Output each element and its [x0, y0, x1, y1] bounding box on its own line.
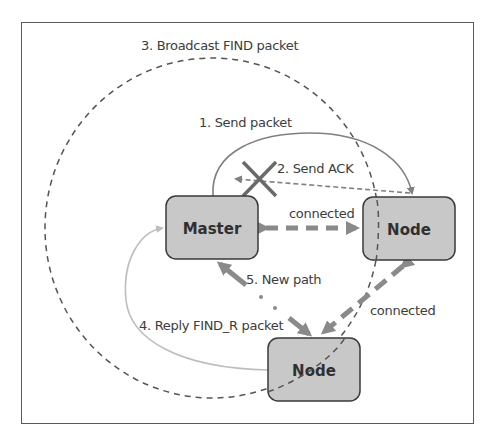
failed-x-icon: [243, 162, 276, 196]
right-node-label: Node: [387, 221, 431, 239]
send-ack-label: 2. Send ACK: [277, 161, 354, 176]
connected-bottom-right-arrow: [324, 266, 403, 332]
master-node[interactable]: Master: [166, 196, 258, 259]
master-node-label: Master: [183, 220, 242, 238]
send-packet-label: 1. Send packet: [199, 115, 292, 130]
connected-label-top: connected: [289, 206, 354, 221]
right-node[interactable]: Node: [363, 197, 455, 260]
reply-find-r-label: 4. Reply FIND_R packet: [139, 318, 284, 333]
connected-label-right: connected: [370, 303, 435, 318]
bottom-node[interactable]: Node: [268, 338, 360, 401]
broadcast-find-label: 3. Broadcast FIND packet: [141, 38, 299, 53]
network-diagram: Master Node Node 3. Broadcast FIND packe…: [0, 0, 494, 441]
new-path-label: 5. New path: [246, 272, 321, 287]
